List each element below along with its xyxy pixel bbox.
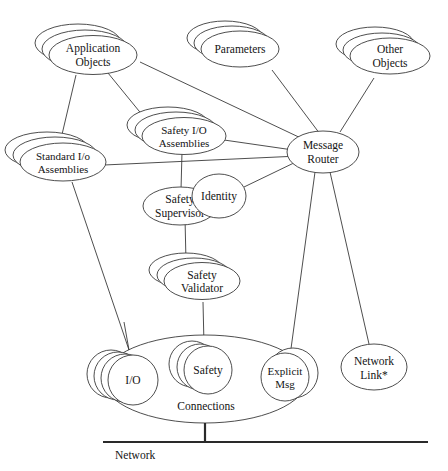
other-objects-label-line1: Other: [377, 43, 403, 55]
application-objects-label-line2: Objects: [75, 56, 111, 69]
edge-standard-io-message-router: [104, 156, 299, 165]
standard-io-label-line1: Standard I/o: [36, 150, 91, 162]
diagram-canvas: Connections Application Objects Paramete…: [0, 0, 448, 471]
standard-io-assemblies-ellipse[interactable]: [20, 143, 106, 181]
edge-other-objects-message-router: [340, 78, 374, 132]
safety-validator-label-line2: Validator: [181, 282, 223, 294]
node-parameters[interactable]: Parameters: [187, 21, 279, 67]
node-network-link[interactable]: Network Link*: [341, 344, 407, 390]
message-router-label-line2: Router: [307, 153, 338, 165]
io-label: I/O: [125, 374, 140, 386]
application-objects-label-line1: Application: [66, 42, 121, 55]
connections-label: Connections: [177, 400, 235, 412]
network-link-label-line2: Link*: [360, 369, 388, 381]
edge-message-router-network-link: [330, 172, 369, 344]
network-bus-label: Network: [115, 449, 155, 461]
edge-io-connections: [124, 322, 129, 350]
safety-validator-label-line1: Safety: [187, 269, 217, 282]
object-model-diagram: Connections Application Objects Paramete…: [0, 0, 448, 471]
node-other-objects[interactable]: Other Objects: [336, 27, 430, 74]
network-link-ellipse[interactable]: [341, 344, 407, 390]
node-safety-io-assemblies[interactable]: Safety I/O Assemblies: [127, 107, 226, 155]
edge-safety-io-safety-supervisor: [181, 152, 182, 190]
node-message-router[interactable]: Message Router: [287, 131, 359, 173]
edge-identity-message-router: [244, 160, 300, 187]
edge-parameters-message-router: [272, 70, 320, 134]
message-router-ellipse[interactable]: [287, 131, 359, 173]
node-safety-validator[interactable]: Safety Validator: [149, 253, 240, 300]
standard-io-label-line2: Assemblies: [38, 163, 89, 175]
explicit-msg-circle[interactable]: [261, 353, 309, 401]
node-application-objects[interactable]: Application Objects: [35, 24, 137, 75]
parameters-label: Parameters: [214, 43, 266, 55]
identity-label: Identity: [201, 190, 237, 203]
safety-supervisor-label-line1: Safety: [165, 193, 195, 206]
node-standard-io-assemblies[interactable]: Standard I/o Assemblies: [5, 132, 106, 181]
network-bus-group: Network: [103, 423, 428, 461]
network-link-label-line1: Network: [354, 355, 394, 367]
other-objects-label-line2: Objects: [372, 57, 408, 70]
edge-message-router-explicit-msg: [290, 172, 315, 356]
message-router-label-line1: Message: [303, 139, 343, 152]
safety-io-label-line2: Assemblies: [159, 137, 210, 149]
node-identity[interactable]: Identity: [192, 174, 246, 218]
safety-io-label-line1: Safety I/O: [161, 124, 207, 136]
explicit-msg-label-line2: Msg: [275, 378, 295, 390]
edge-standard-io-connections: [72, 182, 129, 350]
safety-label: Safety: [193, 364, 223, 377]
explicit-msg-label-line1: Explicit: [268, 365, 303, 377]
